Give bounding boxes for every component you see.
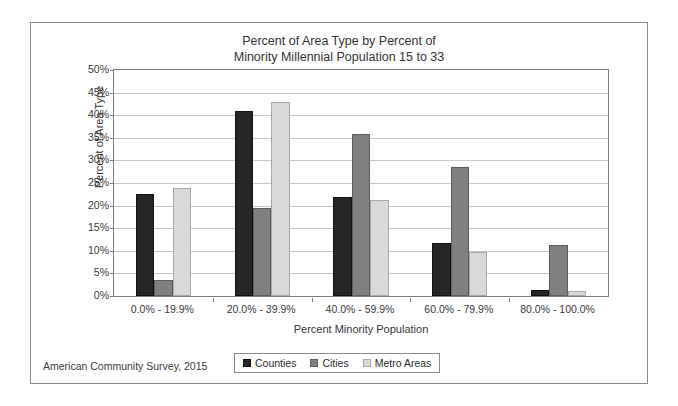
x-tick-label: 40.0% - 59.9% — [326, 303, 395, 315]
y-tick-label: 10% — [65, 244, 109, 256]
y-tick-label: 45% — [65, 86, 109, 98]
y-tick-mark — [110, 206, 114, 207]
x-tick-mark — [213, 298, 214, 302]
plot-area — [113, 69, 609, 297]
bar[interactable] — [370, 200, 388, 296]
bar[interactable] — [271, 102, 289, 296]
bar[interactable] — [469, 252, 487, 296]
bar[interactable] — [451, 167, 469, 296]
bar[interactable] — [333, 197, 351, 296]
y-tick-label: 25% — [65, 176, 109, 188]
source-note: American Community Survey, 2015 — [43, 360, 207, 372]
y-tick-label: 15% — [65, 221, 109, 233]
y-tick-mark — [110, 70, 114, 71]
chart-title-line-2: Minority Millennial Population 15 to 33 — [31, 49, 647, 65]
legend-item[interactable]: Counties — [243, 357, 296, 369]
x-axis-title: Percent Minority Population — [113, 323, 609, 335]
x-tick-label: 80.0% - 100.0% — [520, 303, 595, 315]
bar-group — [136, 70, 191, 296]
y-tick-label: 20% — [65, 199, 109, 211]
bar[interactable] — [549, 245, 567, 296]
x-tick-mark — [410, 298, 411, 302]
legend-label: Counties — [255, 357, 296, 369]
y-tick-mark — [110, 115, 114, 116]
bar[interactable] — [173, 188, 191, 296]
x-tick-label: 60.0% - 79.9% — [424, 303, 493, 315]
y-axis-tick-labels: 0%5%10%15%20%25%30%35%40%45%50% — [61, 69, 109, 297]
chart-title: Percent of Area Type by Percent of Minor… — [31, 33, 647, 65]
x-tick-mark — [509, 298, 510, 302]
y-tick-label: 30% — [65, 153, 109, 165]
chart-title-line-1: Percent of Area Type by Percent of — [31, 33, 647, 49]
bar[interactable] — [235, 111, 253, 296]
bar[interactable] — [253, 208, 271, 296]
x-axis-tick-labels: 0.0% - 19.9%20.0% - 39.9%40.0% - 59.9%60… — [113, 303, 609, 319]
bar[interactable] — [432, 243, 450, 296]
bar-group — [531, 70, 586, 296]
legend-label: Metro Areas — [375, 357, 432, 369]
bar[interactable] — [154, 280, 172, 296]
y-tick-mark — [110, 228, 114, 229]
bar[interactable] — [568, 291, 586, 296]
bar-group — [333, 70, 388, 296]
bar[interactable] — [531, 290, 549, 296]
legend-swatch-icon — [310, 359, 318, 367]
y-tick-mark — [110, 160, 114, 161]
y-tick-mark — [110, 251, 114, 252]
bar[interactable] — [136, 194, 154, 296]
y-tick-label: 50% — [65, 63, 109, 75]
x-tick-label: 20.0% - 39.9% — [227, 303, 296, 315]
legend-label: Cities — [322, 357, 348, 369]
bar-group — [235, 70, 290, 296]
y-tick-mark — [110, 273, 114, 274]
y-tick-label: 40% — [65, 108, 109, 120]
bar[interactable] — [352, 134, 370, 296]
y-tick-label: 35% — [65, 131, 109, 143]
y-tick-label: 0% — [65, 289, 109, 301]
y-tick-mark — [110, 93, 114, 94]
legend-swatch-icon — [243, 359, 251, 367]
bar-group — [432, 70, 487, 296]
x-tick-label: 0.0% - 19.9% — [131, 303, 194, 315]
y-tick-mark — [110, 138, 114, 139]
legend-item[interactable]: Cities — [310, 357, 348, 369]
y-tick-label: 5% — [65, 266, 109, 278]
x-tick-mark — [312, 298, 313, 302]
legend-swatch-icon — [363, 359, 371, 367]
chart-legend: CountiesCitiesMetro Areas — [234, 353, 440, 373]
chart-frame: Percent of Area Type by Percent of Minor… — [30, 22, 648, 384]
y-tick-mark — [110, 296, 114, 297]
y-tick-mark — [110, 183, 114, 184]
legend-item[interactable]: Metro Areas — [363, 357, 432, 369]
